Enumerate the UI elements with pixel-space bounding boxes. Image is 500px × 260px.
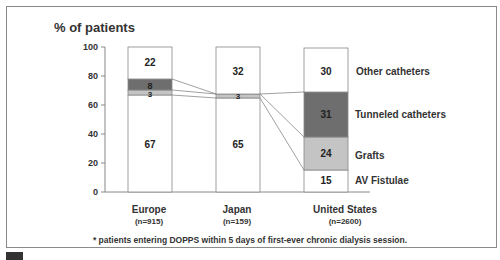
legend-av-fistulae: AV Fistulae — [355, 175, 409, 186]
y-tick-label: 20 — [88, 158, 98, 168]
y-tick-label: 100 — [83, 42, 98, 52]
y-tick-label: 40 — [88, 129, 98, 139]
category-sublabel: (n=2600) — [329, 217, 362, 226]
value-label: 32 — [232, 66, 244, 77]
value-label: 65 — [232, 139, 244, 150]
category-sublabel: (n=159) — [223, 217, 252, 226]
value-label: 15 — [320, 175, 332, 186]
value-label: 22 — [144, 57, 156, 68]
value-label: 31 — [320, 109, 332, 120]
stacked-bar-chart: 100 80 60 40 20 0 67 3 8 22 — [0, 0, 500, 260]
value-label: 67 — [144, 139, 156, 150]
y-axis — [101, 47, 105, 192]
category-sublabel: (n=915) — [135, 217, 164, 226]
value-label: 3 — [148, 90, 153, 99]
value-label: 8 — [147, 81, 152, 91]
category-label: United States — [313, 204, 377, 215]
footnote: * patients entering DOPPS within 5 days … — [0, 235, 500, 245]
legend-tunneled-catheters: Tunneled catheters — [355, 109, 446, 120]
legend-other-catheters: Other catheters — [356, 66, 430, 77]
bar-europe — [128, 47, 172, 192]
value-label: 3 — [236, 92, 241, 101]
legend-grafts: Grafts — [355, 150, 385, 161]
corner-marker — [6, 252, 23, 260]
y-tick-label: 0 — [93, 187, 98, 197]
value-label: 30 — [320, 66, 332, 77]
y-tick-label: 80 — [88, 71, 98, 81]
category-label: Europe — [132, 204, 167, 215]
value-label: 24 — [320, 148, 332, 159]
y-tick-label: 60 — [88, 100, 98, 110]
category-label: Japan — [223, 204, 252, 215]
